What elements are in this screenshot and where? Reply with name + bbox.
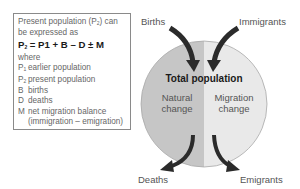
- migration-line2: change: [204, 103, 264, 114]
- immigrants-label: Immigrants: [239, 16, 286, 27]
- deaths-label: Deaths: [138, 174, 168, 185]
- total-population-title: Total population: [164, 73, 244, 84]
- natural-line2: change: [150, 103, 204, 114]
- natural-change-label: Natural change: [150, 92, 204, 114]
- migration-change-label: Migration change: [204, 92, 264, 114]
- natural-line1: Natural: [150, 92, 204, 103]
- migration-line1: Migration: [204, 92, 264, 103]
- emigrants-label: Emigrants: [240, 174, 283, 185]
- births-label: Births: [141, 16, 165, 27]
